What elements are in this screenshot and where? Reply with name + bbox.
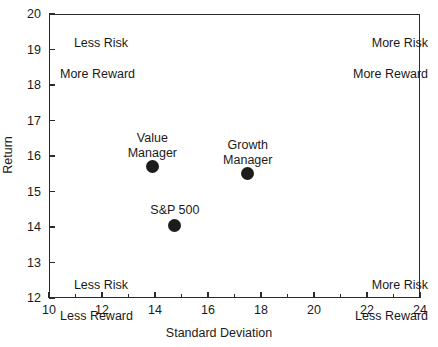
annotation-bottom-right-line2: Less Reward (355, 309, 428, 325)
y-tick-mark (49, 155, 55, 156)
y-tick-label: 16 (13, 149, 41, 163)
y-tick-mark (49, 84, 55, 85)
y-tick-mark (49, 49, 55, 50)
data-point-label-line1: Value (137, 131, 168, 145)
y-tick-mark (49, 297, 55, 298)
x-minor-tick-mark (181, 294, 182, 298)
x-axis-title: Standard Deviation (0, 326, 438, 340)
y-tick-mark (49, 120, 55, 121)
annotation-top-right-line1: More Risk (372, 36, 428, 50)
y-axis-title: Return (1, 125, 15, 185)
y-tick-mark (49, 191, 55, 192)
data-point-label-line1: S&P 500 (150, 203, 199, 217)
y-tick-label: 14 (13, 220, 41, 234)
data-point-label: S&P 500 (110, 203, 240, 219)
data-point-label-line2: Manager (183, 153, 313, 169)
x-tick-label: 20 (294, 303, 334, 317)
data-point-label: GrowthManager (183, 138, 313, 169)
y-tick-label: 20 (13, 7, 41, 21)
annotation-top-left-line2: More Reward (60, 67, 135, 83)
y-tick-label: 12 (13, 291, 41, 305)
x-tick-label: 18 (241, 303, 281, 317)
x-tick-label: 14 (135, 303, 175, 317)
annotation-top-right: More Risk More Reward (353, 20, 428, 113)
risk-return-scatter-chart: 1012141618202224121314151617181920 Value… (0, 0, 438, 347)
x-minor-tick-mark (340, 294, 341, 298)
x-tick-label: 16 (188, 303, 228, 317)
annotation-bottom-left-line2: Less Reward (60, 309, 133, 325)
annotation-top-left: Less Risk More Reward (60, 20, 135, 113)
y-tick-mark (49, 262, 55, 263)
annotation-bottom-right-line1: More Risk (372, 278, 428, 292)
y-tick-label: 19 (13, 43, 41, 57)
x-tick-mark (313, 292, 314, 298)
annotation-top-left-line1: Less Risk (74, 36, 128, 50)
x-minor-tick-mark (234, 294, 235, 298)
y-tick-label: 13 (13, 256, 41, 270)
y-tick-label: 15 (13, 185, 41, 199)
y-tick-label: 17 (13, 114, 41, 128)
x-minor-tick-mark (287, 294, 288, 298)
x-tick-mark (207, 292, 208, 298)
annotation-bottom-left-line1: Less Risk (74, 278, 128, 292)
y-tick-mark (49, 13, 55, 14)
x-tick-mark (260, 292, 261, 298)
data-point-label-line1: Growth (228, 138, 268, 152)
y-tick-mark (49, 226, 55, 227)
x-tick-mark (154, 292, 155, 298)
annotation-top-right-line2: More Reward (353, 67, 428, 83)
y-tick-label: 18 (13, 78, 41, 92)
data-point-marker (146, 160, 159, 173)
